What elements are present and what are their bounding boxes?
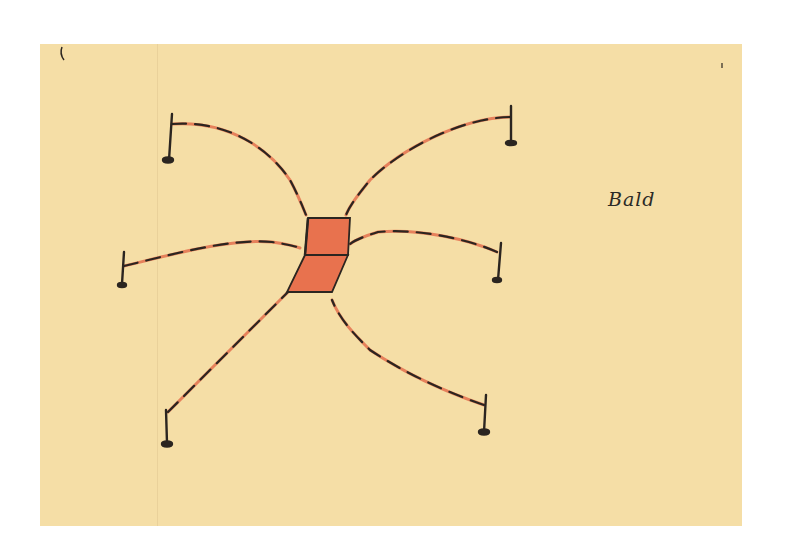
pole-middle-right-icon xyxy=(493,243,501,282)
pole-middle-left-icon xyxy=(118,252,126,287)
rope-bottom-right xyxy=(332,300,484,405)
pole-top-left-icon xyxy=(163,114,173,163)
handwritten-label: Bald xyxy=(608,188,656,210)
rope-top-right xyxy=(346,117,510,215)
pole-top-right-icon xyxy=(506,106,516,145)
pole-bottom-right-icon xyxy=(479,395,489,435)
pole-bottom-left-icon xyxy=(162,410,172,447)
center-block xyxy=(287,218,350,292)
sketch-drawing xyxy=(0,0,792,551)
corner-mark xyxy=(61,47,64,60)
